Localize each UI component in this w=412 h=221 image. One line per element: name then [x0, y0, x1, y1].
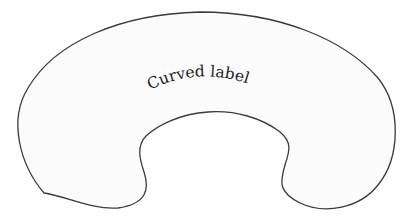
- diagram-canvas: Curved label: [0, 0, 412, 221]
- diagram-svg: Curved label: [0, 0, 412, 221]
- curved-region-shape: [18, 12, 395, 209]
